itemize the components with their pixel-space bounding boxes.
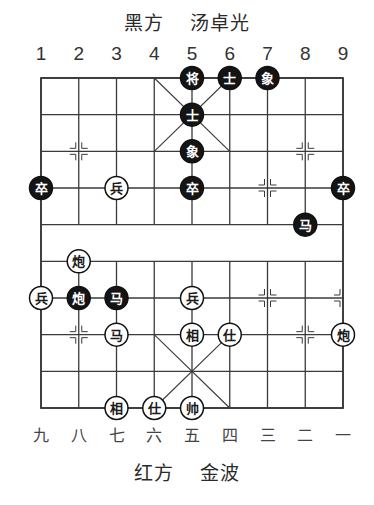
position-marker-icon xyxy=(308,338,314,344)
position-marker-icon xyxy=(271,301,277,307)
position-marker-icon xyxy=(334,301,340,307)
black-piece[interactable]: 士 xyxy=(218,67,241,90)
position-marker-icon xyxy=(82,142,88,148)
piece-label: 卒 xyxy=(35,181,48,196)
piece-label: 帅 xyxy=(186,401,199,416)
position-marker-icon xyxy=(308,142,314,148)
piece-label: 卒 xyxy=(337,181,350,196)
position-marker-icon xyxy=(296,142,302,148)
board-grid xyxy=(41,78,343,408)
piece-label: 象 xyxy=(186,144,199,159)
position-marker-icon xyxy=(259,179,265,185)
position-marker-icon xyxy=(334,289,340,295)
piece-label: 兵 xyxy=(35,291,48,306)
position-marker-icon xyxy=(70,142,76,148)
position-marker-icon xyxy=(296,338,302,344)
position-marker-icon xyxy=(259,301,265,307)
black-piece[interactable]: 士 xyxy=(181,103,204,126)
position-marker-icon xyxy=(296,326,302,332)
position-marker-icon xyxy=(271,191,277,197)
red-side-label: 红方 xyxy=(134,462,174,484)
position-marker-icon xyxy=(70,154,76,160)
position-markers xyxy=(70,142,340,343)
piece-label: 马 xyxy=(299,218,312,233)
piece-label: 炮 xyxy=(337,328,350,343)
position-marker-icon xyxy=(70,326,76,332)
file-label-bottom: 一 xyxy=(331,422,355,446)
black-piece[interactable]: 卒 xyxy=(181,177,204,200)
position-marker-icon xyxy=(259,289,265,295)
piece-label: 仕 xyxy=(147,401,161,416)
red-piece[interactable]: 兵 xyxy=(30,287,53,310)
black-piece[interactable]: 炮 xyxy=(67,287,90,310)
red-piece[interactable]: 仕 xyxy=(143,397,166,420)
black-piece[interactable]: 象 xyxy=(181,140,204,163)
position-marker-icon xyxy=(296,154,302,160)
file-label-bottom: 七 xyxy=(105,422,129,446)
red-piece[interactable]: 兵 xyxy=(181,287,204,310)
position-marker-icon xyxy=(259,191,265,197)
red-piece[interactable]: 炮 xyxy=(67,250,90,273)
piece-label: 兵 xyxy=(110,181,123,196)
position-marker-icon xyxy=(82,338,88,344)
file-label-bottom: 二 xyxy=(293,422,317,446)
red-side-title: 红方金波 xyxy=(0,458,374,485)
piece-label: 相 xyxy=(110,401,123,416)
piece-label: 炮 xyxy=(72,254,85,269)
red-piece[interactable]: 相 xyxy=(105,397,128,420)
black-piece[interactable]: 将 xyxy=(181,67,204,90)
black-piece[interactable]: 卒 xyxy=(332,177,355,200)
piece-label: 马 xyxy=(110,328,123,343)
piece-label: 士 xyxy=(186,108,199,123)
file-label-bottom: 六 xyxy=(142,422,166,446)
file-label-bottom: 九 xyxy=(29,422,53,446)
position-marker-icon xyxy=(82,326,88,332)
red-piece[interactable]: 炮 xyxy=(332,323,355,346)
file-label-bottom: 五 xyxy=(180,422,204,446)
red-piece[interactable]: 仕 xyxy=(218,323,241,346)
red-player-name: 金波 xyxy=(200,462,240,484)
red-piece[interactable]: 马 xyxy=(105,323,128,346)
piece-label: 象 xyxy=(261,71,274,86)
file-label-bottom: 八 xyxy=(67,422,91,446)
file-label-bottom: 三 xyxy=(256,422,280,446)
position-marker-icon xyxy=(271,289,277,295)
black-piece[interactable]: 卒 xyxy=(30,177,53,200)
piece-label: 仕 xyxy=(222,328,236,343)
piece-label: 卒 xyxy=(186,181,199,196)
file-label-bottom: 四 xyxy=(218,422,242,446)
piece-label: 将 xyxy=(186,71,199,86)
red-piece[interactable]: 帅 xyxy=(181,397,204,420)
piece-label: 炮 xyxy=(72,291,85,306)
black-piece[interactable]: 象 xyxy=(256,67,279,90)
black-piece[interactable]: 马 xyxy=(105,287,128,310)
red-piece[interactable]: 相 xyxy=(181,323,204,346)
piece-label: 马 xyxy=(110,291,123,306)
black-piece[interactable]: 马 xyxy=(294,213,317,236)
position-marker-icon xyxy=(82,154,88,160)
red-piece[interactable]: 兵 xyxy=(105,177,128,200)
position-marker-icon xyxy=(271,179,277,185)
position-marker-icon xyxy=(308,154,314,160)
piece-label: 士 xyxy=(223,71,236,86)
position-marker-icon xyxy=(308,326,314,332)
piece-label: 相 xyxy=(186,328,199,343)
position-marker-icon xyxy=(70,338,76,344)
piece-label: 兵 xyxy=(186,291,199,306)
